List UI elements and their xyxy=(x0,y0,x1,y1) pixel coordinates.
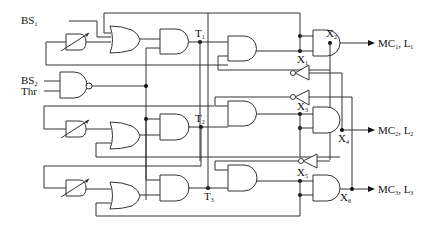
and-gate-x6 xyxy=(313,175,340,201)
and-gate-t3 xyxy=(160,175,189,201)
inverter-1 xyxy=(291,65,310,80)
or-gate-3 xyxy=(110,182,140,209)
label-output-1: MC1, L1 xyxy=(378,37,413,50)
label-output-3: MC3, L3 xyxy=(378,183,413,196)
label-output-2: MC2, L2 xyxy=(378,124,413,137)
label-x6: X6 xyxy=(340,191,351,204)
and-gate-x3 xyxy=(228,101,257,126)
and-gate-x5 xyxy=(228,165,257,191)
label-t3: T3 xyxy=(204,190,214,203)
and-gate-t1 xyxy=(160,29,188,54)
label-thr: Thr xyxy=(21,85,37,97)
logic-circuit-diagram: BS1 BS2 Thr T1 T2 T3 X1 X2 X3 X4 X5 X6 M… xyxy=(0,0,428,228)
and-gate-x1 xyxy=(228,36,257,61)
and-gate-x4 xyxy=(313,107,340,133)
label-x5: X5 xyxy=(297,166,308,179)
label-x1: X1 xyxy=(297,53,308,66)
label-t2: T2 xyxy=(195,112,205,125)
or-gate-2 xyxy=(110,122,140,149)
label-t1: T1 xyxy=(195,27,205,40)
nor-gate xyxy=(60,72,87,98)
label-bs1: BS1 xyxy=(21,14,37,27)
or-gate-1 xyxy=(110,26,140,53)
and-gate-t2 xyxy=(160,114,189,140)
label-x2: X2 xyxy=(326,27,337,40)
label-x4: X4 xyxy=(338,132,349,145)
